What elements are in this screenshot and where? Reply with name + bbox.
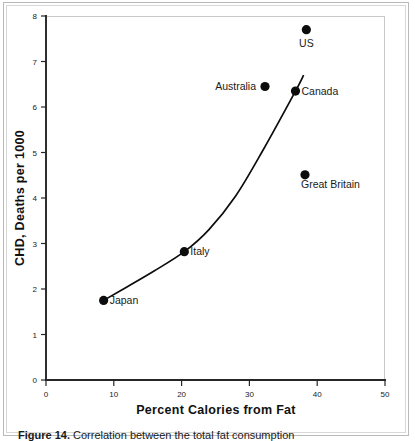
data-point-canada <box>291 86 300 95</box>
x-tick-label-40: 40 <box>313 390 322 399</box>
y-axis-ticks: 0 1 2 3 4 5 6 7 8 <box>33 12 46 385</box>
data-point-australia <box>260 82 269 91</box>
x-axis-title: Percent Calories from Fat <box>136 403 296 417</box>
caption-text: Correlation between the total fat consum… <box>70 429 294 441</box>
data-point-japan <box>99 296 108 305</box>
trend-curve <box>104 75 304 300</box>
plot-panel-border <box>47 17 385 381</box>
x-tick-label-30: 30 <box>245 390 254 399</box>
figure-caption: Figure 14. Correlation between the total… <box>18 429 398 441</box>
y-tick-label-0: 0 <box>33 376 38 385</box>
y-tick-label-5: 5 <box>33 149 38 158</box>
y-tick-label-4: 4 <box>33 194 38 203</box>
y-tick-label-6: 6 <box>33 103 38 112</box>
x-tick-label-0: 0 <box>44 390 49 399</box>
data-point-italy <box>180 247 189 256</box>
point-label-italy: Italy <box>190 245 210 257</box>
x-tick-label-50: 50 <box>381 390 390 399</box>
x-tick-label-10: 10 <box>109 390 118 399</box>
point-label-canada: Canada <box>302 85 339 97</box>
point-label-great-britain: Great Britain <box>301 178 360 190</box>
data-points-group: JapanItalyAustraliaCanadaGreat BritainUS <box>99 25 360 306</box>
y-tick-label-2: 2 <box>33 285 38 294</box>
x-tick-label-20: 20 <box>177 390 186 399</box>
caption-number: Figure 14. <box>18 429 70 441</box>
y-tick-label-1: 1 <box>33 331 38 340</box>
y-tick-label-3: 3 <box>33 240 38 249</box>
point-label-australia: Australia <box>215 80 256 92</box>
data-point-us <box>302 25 311 34</box>
y-tick-label-7: 7 <box>33 58 38 67</box>
point-label-japan: Japan <box>110 294 139 306</box>
x-axis-ticks: 0 10 20 30 40 50 <box>44 380 390 399</box>
point-label-us: US <box>299 37 314 49</box>
y-tick-label-8: 8 <box>33 12 38 21</box>
y-axis-title: CHD, Deaths per 1000 <box>13 130 27 266</box>
